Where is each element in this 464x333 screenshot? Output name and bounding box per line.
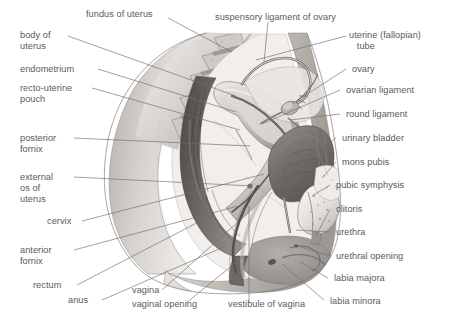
anatomy-figure: fundus of uterus suspensory ligament of … (0, 0, 464, 333)
label-clitoris: clitoris (336, 204, 362, 215)
label-endometrium: endometrium (20, 64, 74, 75)
label-vaginal-opening: vaginal opening (132, 299, 197, 310)
label-suspensory-ligament-of-ovary: suspensory ligament of ovary (215, 12, 336, 23)
label-cervix: cervix (47, 216, 71, 227)
label-urethral-opening: urethral opening (336, 251, 403, 262)
label-labia-minora: labia minora (330, 296, 381, 307)
label-external-os-of-uterus: external os of uterus (20, 172, 53, 206)
label-mons-pubis: mons pubis (342, 157, 389, 168)
label-urinary-bladder: urinary bladder (342, 133, 404, 144)
label-anus: anus (68, 295, 88, 306)
pelvis-cross-section (104, 28, 343, 324)
label-vagina: vagina (132, 285, 159, 296)
label-anterior-fornix: anterior fornix (20, 245, 52, 267)
label-vestibule-of-vagina: vestibule of vagina (228, 299, 305, 310)
label-round-ligament: round ligament (346, 109, 407, 120)
label-posterior-fornix: posterior fornix (20, 133, 56, 155)
label-pubic-symphysis: pubic symphysis (336, 180, 404, 191)
label-fundus-of-uterus: fundus of uterus (86, 9, 153, 20)
label-ovary: ovary (352, 64, 375, 75)
label-labia-majora: labia majora (334, 273, 385, 284)
label-rectum: rectum (33, 280, 61, 291)
label-body-of-uterus: body of uterus (20, 30, 51, 52)
label-ovarian-ligament: ovarian ligament (346, 85, 414, 96)
label-urethra: urethra (336, 227, 365, 238)
label-recto-uterine-pouch: recto-uterine pouch (20, 83, 72, 105)
label-uterine-fallopian-tube: uterine (fallopian) tube (349, 30, 421, 52)
